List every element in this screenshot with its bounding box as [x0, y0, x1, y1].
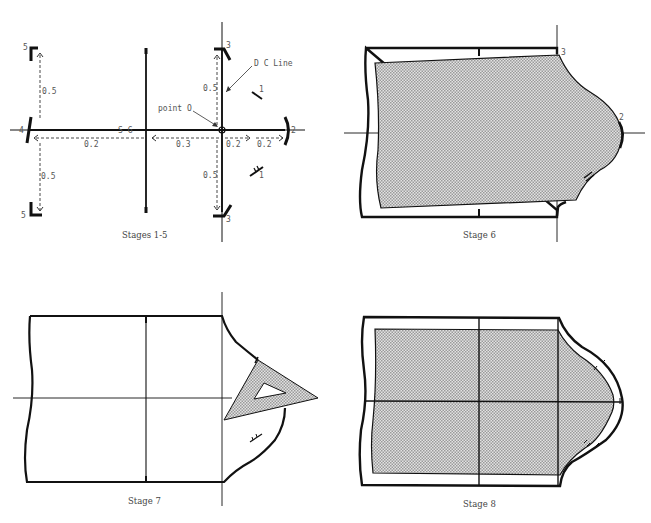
num-4: 4 — [19, 126, 24, 135]
measure-right-horiz-2: 0.2 — [257, 140, 272, 149]
dc-line-label: D C Line — [254, 59, 293, 68]
measure-up-left: 0.5 — [42, 87, 57, 96]
caption-stage-8: Stage 8 — [463, 499, 496, 509]
panel-stage-8: Stage 8 — [360, 317, 623, 509]
num-3-top: 3 — [226, 41, 231, 50]
point-o-label: point O — [158, 104, 192, 113]
sg-label: S G — [118, 126, 133, 135]
measurement-arrows — [34, 54, 283, 210]
num-2: 2 — [291, 126, 296, 135]
corner-mark-5-top — [31, 48, 38, 61]
measure-down-right: 0.5 — [203, 171, 218, 180]
panel-stage-6: 3 2 Stage 6 — [344, 25, 645, 242]
panel-stages-1-5: D C Line point O S G 1 1 2 3 3 4 5 5 0.5… — [10, 22, 305, 242]
num-1-top: 1 — [259, 85, 264, 94]
panel-stage-7: Stage 7 — [13, 292, 318, 506]
num-1-bottom: 1 — [259, 171, 264, 180]
measure-left-horiz: 0.2 — [84, 140, 99, 149]
measure-mid-horiz: 0.3 — [176, 140, 191, 149]
num-3-bottom: 3 — [226, 215, 231, 224]
shaded-pattern-piece — [375, 55, 622, 208]
mark-3-bottom — [557, 202, 566, 216]
caption-stage-7: Stage 7 — [128, 496, 161, 506]
num-5-bottom: 5 — [21, 211, 26, 220]
num-2: 2 — [619, 113, 624, 122]
measure-up-right: 0.5 — [203, 84, 218, 93]
mark-2 — [285, 117, 289, 145]
caption-stages-1-5: Stages 1-5 — [122, 230, 168, 240]
mark-4 — [27, 117, 31, 143]
pattern-diagram: D C Line point O S G 1 1 2 3 3 4 5 5 0.5… — [0, 0, 651, 523]
caption-stage-6: Stage 6 — [463, 230, 496, 240]
measure-down-left: 0.5 — [41, 172, 56, 181]
num-5-top: 5 — [23, 43, 28, 52]
num-3: 3 — [561, 48, 566, 57]
measure-right-horiz-1: 0.2 — [226, 140, 241, 149]
